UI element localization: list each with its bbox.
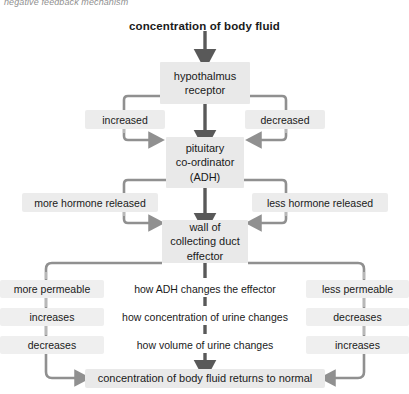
chip-decreased: decreased — [245, 110, 325, 129]
coordinator-line-2: co-ordinator — [176, 155, 235, 169]
figure-caption: negative feedback mechanism — [4, 0, 128, 7]
effector-line-3: effector — [187, 249, 224, 263]
row-3-left: decreases — [0, 336, 104, 354]
node-outcome: concentration of body fluid returns to n… — [85, 369, 325, 388]
effector-line-2: collecting duct — [170, 234, 240, 248]
coordinator-line-3: (ADH) — [190, 170, 221, 184]
effector-line-1: wall of — [189, 220, 220, 234]
chip-more-hormone-released: more hormone released — [22, 193, 158, 212]
node-pituitary-coordinator: pituitary co-ordinator (ADH) — [166, 137, 244, 188]
row-1-left: more permeable — [0, 280, 104, 298]
row-1-middle: how ADH changes the effector — [112, 280, 298, 298]
stimulus-label: concentration of body fluid — [0, 20, 409, 32]
chip-less-hormone-released: less hormone released — [252, 193, 388, 212]
row-2-left: increases — [0, 308, 104, 326]
row-2-right: decreases — [306, 308, 409, 326]
row-1-right: less permeable — [306, 280, 409, 298]
diagram-canvas: negative feedback mechanism — [0, 0, 409, 394]
row-3-right: increases — [306, 336, 409, 354]
row-2-middle: how concentration of urine changes — [112, 308, 298, 326]
receptor-line-2: receptor — [185, 83, 225, 97]
node-hypothalamus-receptor: hypothalmus receptor — [160, 62, 250, 104]
row-3-middle: how volume of urine changes — [112, 336, 298, 354]
receptor-line-1: hypothalmus — [174, 69, 236, 83]
chip-increased: increased — [85, 110, 165, 129]
node-collecting-duct-effector: wall of collecting duct effector — [162, 220, 248, 263]
coordinator-line-1: pituitary — [186, 141, 225, 155]
